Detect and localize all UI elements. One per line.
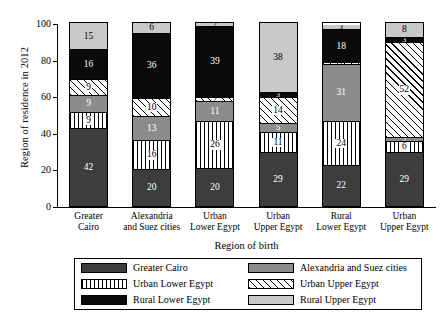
bar-segment-value: 20: [209, 183, 221, 193]
bar-segment[interactable]: 36: [133, 34, 170, 99]
bar-segment[interactable]: 9: [70, 80, 107, 96]
bar-segment[interactable]: 1: [323, 63, 360, 65]
bar-segment[interactable]: 16: [70, 50, 107, 79]
bar-segment[interactable]: 39: [196, 27, 233, 98]
x-axis-label: UrbanUpper Egypt: [373, 211, 435, 233]
bar-segment[interactable]: 5: [260, 124, 297, 133]
y-tick-mark: [53, 207, 57, 208]
bar-segment-value: 18: [335, 42, 347, 52]
bar-segment[interactable]: 6: [386, 142, 423, 153]
bar-segment-value: 3: [275, 93, 281, 98]
bar-segment[interactable]: 29: [386, 153, 423, 206]
x-axis-label-line: Lower Egypt: [184, 222, 246, 233]
bar-segment[interactable]: 3: [386, 38, 423, 43]
bar-segment[interactable]: 16: [133, 141, 170, 170]
bar-segment[interactable]: 14: [260, 98, 297, 124]
bar-segment-value: 29: [272, 175, 284, 185]
bar-column[interactable]: 2911514338: [259, 22, 298, 207]
plot-area: 020406080100 429991615201613103662026112…: [57, 24, 436, 207]
x-axis-label: GreaterCairo: [58, 211, 120, 233]
bar-segment-value: 39: [209, 57, 221, 67]
legend-item[interactable]: Urban Lower Egypt: [81, 276, 248, 292]
legend-swatch: [248, 279, 294, 289]
bar-segment[interactable]: 8: [386, 23, 423, 38]
bar-segment[interactable]: 26: [196, 122, 233, 170]
stacked-bar-chart: Region of residence in 2012 020406080100…: [0, 0, 442, 322]
bar-segment-value: 6: [148, 23, 155, 33]
bar-segment[interactable]: 3: [323, 25, 360, 30]
y-tick-label: 40: [41, 129, 51, 139]
bar-segment[interactable]: 42: [70, 129, 107, 206]
legend-item[interactable]: Greater Cairo: [81, 260, 248, 276]
x-axis-label-line: Urban: [247, 211, 309, 222]
legend-swatch: [81, 263, 127, 273]
bar-segment[interactable]: 10: [133, 99, 170, 117]
chart-legend: Greater CairoAlexandria and Suez citiesU…: [74, 258, 422, 310]
bar-segment[interactable]: 38: [260, 23, 297, 93]
bar-segment[interactable]: 31: [323, 65, 360, 122]
x-axis-label-line: Lower Egypt: [310, 222, 372, 233]
x-axis-label-line: Urban: [373, 211, 435, 222]
bar-segment-value: 16: [146, 150, 158, 160]
bar-segment-value: 26: [209, 140, 221, 150]
bar-segment-value: 1: [338, 63, 344, 65]
y-axis-title: Region of residence in 2012: [19, 18, 30, 198]
legend-item[interactable]: Rural Upper Egypt: [248, 292, 415, 308]
legend-item[interactable]: Alexandria and Suez cities: [248, 260, 415, 276]
legend-item[interactable]: Rural Lower Egypt: [81, 292, 248, 308]
bar-segment-value: 13: [146, 124, 158, 134]
bar-segment-value: 11: [272, 138, 283, 148]
x-axis-label-line: Urban: [184, 211, 246, 222]
legend-label: Rural Lower Egypt: [133, 295, 210, 305]
legend-label: Rural Upper Egypt: [300, 295, 376, 305]
bar-segment-value: 2: [212, 98, 218, 102]
bar-segment-value: 24: [335, 139, 347, 149]
bar-segment[interactable]: 15: [70, 23, 107, 50]
bar-segment[interactable]: 9: [70, 96, 107, 112]
x-axis-label: Alexandriaand Suez cities: [121, 211, 183, 233]
bar-segment[interactable]: 22: [323, 166, 360, 206]
bar-segment[interactable]: 29: [260, 153, 297, 206]
bar-segment[interactable]: 9: [70, 113, 107, 129]
bar-column[interactable]: 429991615: [69, 22, 108, 207]
legend-swatch: [81, 279, 127, 289]
bar-column[interactable]: 2224311183: [322, 22, 361, 207]
bar-segment[interactable]: 24: [323, 122, 360, 166]
bar-segment[interactable]: 2: [196, 98, 233, 102]
bar-segment-value: 9: [85, 83, 92, 93]
x-axis-line: [57, 207, 436, 208]
bar-segment[interactable]: 13: [133, 117, 170, 141]
bar-segment[interactable]: 6: [133, 23, 170, 34]
legend-swatch: [248, 263, 294, 273]
bar-segment-value: 6: [401, 142, 408, 152]
legend-item[interactable]: Urban Upper Egypt: [248, 276, 415, 292]
bar-column[interactable]: 2026112392: [195, 22, 234, 207]
bar-segment-value: 16: [83, 60, 95, 70]
y-tick-label: 80: [41, 56, 51, 66]
bar-segment[interactable]: 18: [323, 30, 360, 63]
x-axis-label-line: Rural: [310, 211, 372, 222]
x-axis-label: RuralLower Egypt: [310, 211, 372, 233]
bar-segment[interactable]: 52: [386, 43, 423, 138]
bar-segment[interactable]: 2: [196, 23, 233, 27]
bar-segment[interactable]: 3: [260, 93, 297, 98]
x-axis-label: UrbanUpper Egypt: [247, 211, 309, 233]
y-tick-label: 60: [41, 92, 51, 102]
bar-segment[interactable]: 20: [133, 170, 170, 206]
x-axis-labels: GreaterCairoAlexandriaand Suez citiesUrb…: [57, 211, 436, 233]
bar-segment-value: 8: [401, 25, 408, 35]
x-axis-label-line: Upper Egypt: [373, 222, 435, 233]
y-tick-label: 20: [41, 165, 51, 175]
bar-segment-value: 36: [146, 61, 158, 71]
bar-segment[interactable]: 11: [260, 133, 297, 153]
bar-segment-value: 29: [399, 175, 411, 185]
bar-segment-value: 20: [146, 183, 158, 193]
bar-column[interactable]: 29625238: [385, 22, 424, 207]
x-axis-label-line: Greater: [58, 211, 120, 222]
bar-column[interactable]: 20161310366: [132, 22, 171, 207]
bar-segment-value: 22: [335, 181, 347, 191]
bar-segment[interactable]: 20: [196, 169, 233, 206]
legend-label: Alexandria and Suez cities: [300, 263, 407, 273]
bar-segment[interactable]: 11: [196, 102, 233, 122]
bar-group: 4299916152016131036620261123922911514338…: [57, 24, 436, 207]
